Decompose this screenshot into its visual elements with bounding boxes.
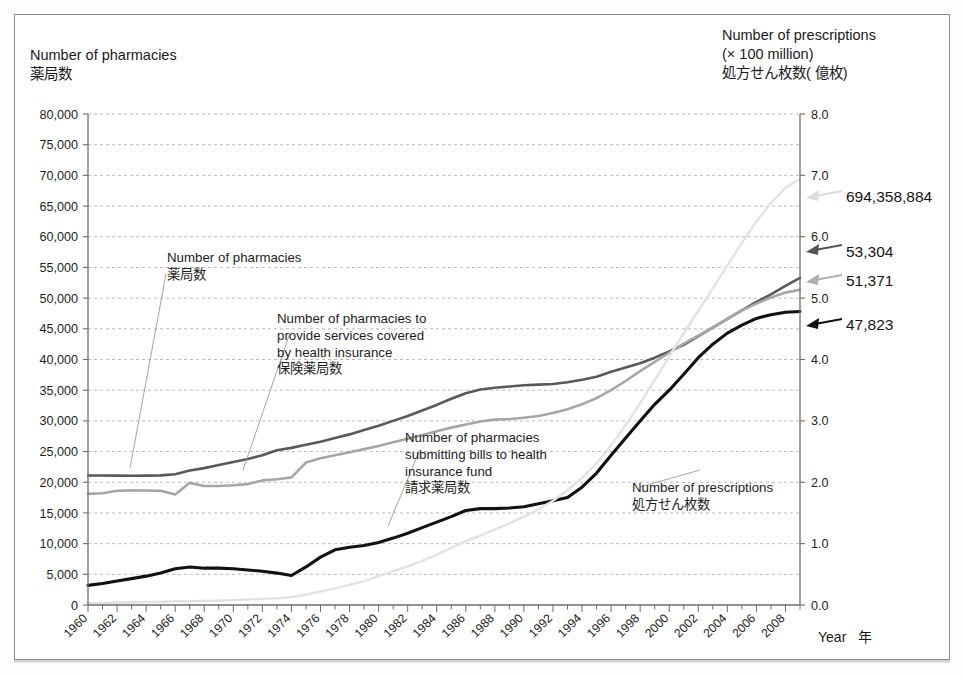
arrow-head [806, 244, 819, 255]
x-tick-label: 1990 [497, 611, 526, 640]
y-tick-label-left: 50,000 [39, 292, 78, 306]
x-tick-label: 1982 [381, 611, 410, 640]
y-tick-label-right: 4.0 [811, 353, 829, 367]
x-tick-label: 2000 [642, 611, 671, 640]
callout-billing-pharmacies: Number of pharmacies submitting bills to… [405, 430, 547, 497]
arrow-head [806, 318, 819, 329]
x-tick-label: 1966 [148, 611, 177, 640]
y-tick-label-left: 55,000 [39, 261, 78, 275]
arrow-shaft [815, 275, 842, 280]
tick-labels: 05,00010,00015,00020,00025,00030,00035,0… [39, 108, 828, 641]
y-tick-label-right: 5.0 [811, 292, 829, 306]
y-tick-label-right: 7.0 [811, 169, 829, 183]
figure-root: Number of pharmacies 薬局数 Number of presc… [0, 0, 964, 677]
callout-insured-pharmacies: Number of pharmacies to provide services… [277, 311, 426, 378]
x-tick-label: 1996 [584, 611, 613, 640]
arrow-billing [806, 318, 842, 329]
callout-prescriptions: Number of prescriptions 処方せん枚数 [632, 480, 773, 514]
x-tick-label: 1984 [410, 611, 439, 640]
value-label-billing: 47,823 [846, 316, 893, 334]
y-tick-label-right: 1.0 [811, 537, 829, 551]
value-label-pharmacies: 53,304 [846, 243, 893, 261]
y-tick-label-left: 75,000 [39, 138, 78, 152]
series-group [88, 179, 800, 603]
y-tick-label-left: 10,000 [39, 537, 78, 551]
y-tick-label-left: 70,000 [39, 169, 78, 183]
y-tick-label-left: 20,000 [39, 476, 78, 490]
arrow-prescriptions [806, 190, 842, 201]
y-tick-label-left: 30,000 [39, 414, 78, 428]
x-tick-label: 2002 [671, 611, 700, 640]
y-tick-label-right: 6.0 [811, 230, 829, 244]
arrow-shaft [815, 191, 842, 196]
series-line [88, 179, 800, 603]
arrow-shaft [815, 245, 842, 250]
arrow-shaft [815, 319, 842, 324]
x-tick-label: 1986 [439, 611, 468, 640]
x-tick-label: 2006 [729, 611, 758, 640]
arrow-head [806, 190, 819, 201]
y-tick-label-left: 45,000 [39, 322, 78, 336]
arrow-pharmacies [806, 244, 842, 255]
y-tick-label-right: 2.0 [811, 476, 829, 490]
x-tick-label: 1994 [555, 611, 584, 640]
y-tick-label-right: 0.0 [811, 599, 829, 613]
x-tick-label: 1974 [264, 611, 293, 640]
x-tick-label: 1992 [526, 611, 555, 640]
x-tick-label: 1998 [613, 611, 642, 640]
y-tick-label-right: 3.0 [811, 414, 829, 428]
leader-line [130, 274, 166, 468]
value-arrows [806, 190, 842, 329]
arrow-head [806, 274, 819, 285]
value-label-insured: 51,371 [846, 272, 893, 290]
y-tick-label-right: 8.0 [811, 108, 829, 122]
x-tick-label: 1988 [468, 611, 497, 640]
x-tick-label: 1978 [323, 611, 352, 640]
y-tick-label-left: 25,000 [39, 445, 78, 459]
y-tick-label-left: 35,000 [39, 384, 78, 398]
x-tick-label: 1964 [119, 611, 148, 640]
x-tick-label: 1976 [294, 611, 323, 640]
x-tick-label: 1980 [352, 611, 381, 640]
y-tick-label-left: 5,000 [46, 568, 78, 582]
x-tick-label: 2008 [759, 611, 788, 640]
y-tick-label-left: 15,000 [39, 507, 78, 521]
callout-pharmacies: Number of pharmacies 薬局数 [167, 250, 302, 284]
x-tick-label: 1962 [90, 611, 119, 640]
y-tick-label-left: 60,000 [39, 230, 78, 244]
arrow-insured [806, 274, 842, 285]
value-label-prescriptions: 694,358,884 [846, 188, 932, 206]
x-axis-title: Year 年 [818, 626, 872, 646]
x-tick-label: 1968 [177, 611, 206, 640]
x-tick-label: 1970 [206, 611, 235, 640]
y-tick-label-left: 40,000 [39, 353, 78, 367]
x-tick-label: 2004 [700, 611, 729, 640]
x-tick-label: 1972 [235, 611, 264, 640]
y-tick-label-left: 80,000 [39, 108, 78, 122]
x-tick-label: 1960 [61, 611, 90, 640]
axes [83, 114, 805, 612]
y-tick-label-left: 65,000 [39, 200, 78, 214]
y-tick-label-left: 0 [71, 599, 78, 613]
line-chart: 05,00010,00015,00020,00025,00030,00035,0… [0, 0, 964, 677]
